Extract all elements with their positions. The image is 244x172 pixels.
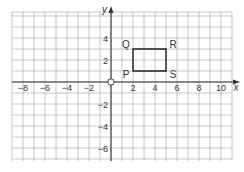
x-tick-label: −6 [40,83,50,93]
origin-marker [108,79,114,85]
vertex-labels: PQRS [122,39,177,80]
x-tick-label: 2 [130,83,135,93]
y-tick-label: −6 [98,144,108,154]
vertex-label-q: Q [122,39,130,50]
y-tick-label: 4 [103,34,108,44]
x-tick-label: −4 [62,83,72,93]
vertex-label-p: P [123,69,130,80]
x-tick-label: 10 [216,83,226,93]
x-axis-label: x [233,82,240,93]
vertex-label-r: R [169,39,176,50]
x-tick-label: 6 [174,83,179,93]
coordinate-grid: −8−6−4−224681042−2−4−6xy PQRS [0,0,244,172]
y-axis-arrow-icon [109,6,114,13]
y-tick-label: −4 [98,122,108,132]
x-tick-label: 4 [152,83,157,93]
y-axis-label: y [101,4,108,15]
x-tick-label: −2 [84,83,94,93]
x-tick-label: 8 [196,83,201,93]
vertex-label-s: S [170,69,177,80]
y-tick-label: 2 [103,56,108,66]
y-tick-label: −2 [98,100,108,110]
x-tick-label: −8 [18,83,28,93]
